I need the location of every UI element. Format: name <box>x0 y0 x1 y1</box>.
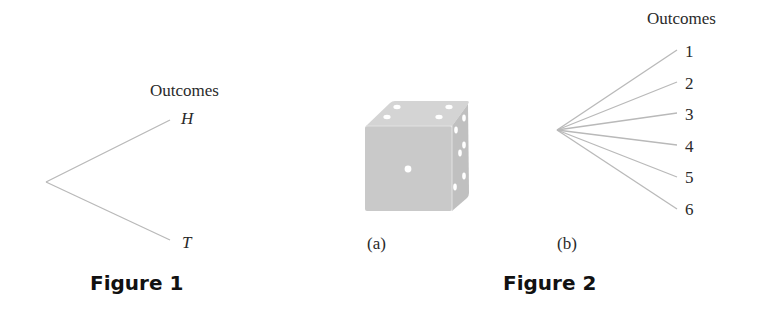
panel-b-label: (b) <box>557 234 577 253</box>
figure-2b-tree: Outcomes 1 2 3 4 5 6 <box>557 9 716 219</box>
branch-heads <box>46 120 170 182</box>
die-icon <box>365 101 469 211</box>
branch-tails <box>46 182 170 240</box>
die-pip <box>405 166 412 173</box>
die-pip <box>458 150 462 157</box>
die-pip <box>435 115 442 119</box>
figure-2-outcomes-header: Outcomes <box>647 9 716 28</box>
die-pip <box>383 115 390 119</box>
outcome-4: 4 <box>685 137 694 156</box>
panel-a-label: (a) <box>367 234 386 253</box>
outcome-6: 6 <box>685 200 694 219</box>
die-pip <box>462 115 466 122</box>
figure-1-caption: Figure 1 <box>90 271 183 295</box>
die-pip <box>393 105 400 109</box>
die-pip <box>454 127 458 134</box>
branch-2 <box>557 82 677 130</box>
outcome-5: 5 <box>685 168 694 187</box>
figure-2-caption: Figure 2 <box>503 271 596 295</box>
outcome-1: 1 <box>685 42 694 61</box>
figures-canvas: Outcomes H T Figure 1 (a) Outcomes <box>0 0 770 320</box>
branch-3 <box>557 113 677 130</box>
die-pip <box>462 173 466 180</box>
outcome-3: 3 <box>685 105 694 124</box>
outcome-tails: T <box>182 233 193 252</box>
die-top-face <box>366 101 469 126</box>
outcome-2: 2 <box>685 74 694 93</box>
die-pip <box>453 184 457 191</box>
figure-1: Outcomes H T Figure 1 <box>46 81 219 295</box>
die-pip <box>462 142 466 149</box>
die-pip <box>445 105 452 109</box>
branch-1 <box>557 50 677 130</box>
outcome-heads: H <box>180 109 195 128</box>
figure-1-outcomes-header: Outcomes <box>150 81 219 100</box>
